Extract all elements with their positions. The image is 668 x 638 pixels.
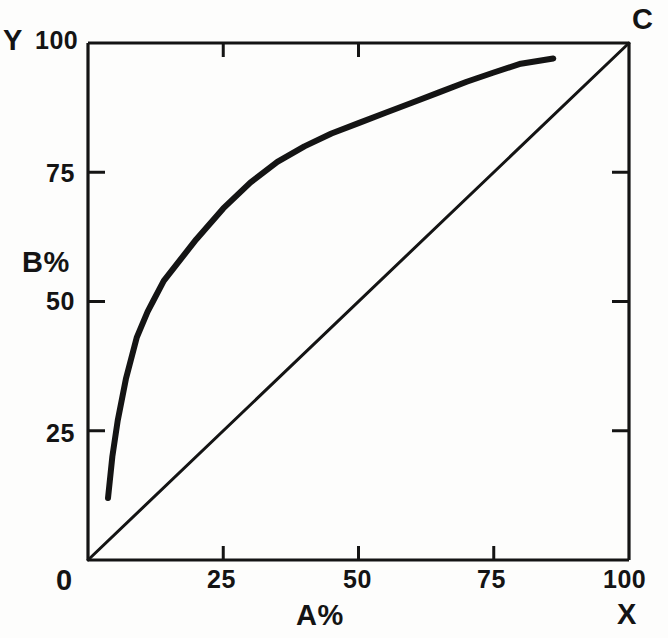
y-axis-endpoint-marker: Y (3, 26, 23, 55)
x-axis-endpoint-marker: X (617, 600, 637, 629)
y-tick-label-75: 75 (46, 161, 75, 186)
x-tick-label-75: 75 (477, 567, 506, 592)
x-tick-label-50: 50 (343, 567, 372, 592)
x-axis-title: A% (296, 601, 344, 630)
x-tick-label-100: 100 (603, 567, 646, 592)
origin-label: 0 (56, 566, 73, 595)
corner-marker-c: C (632, 5, 653, 34)
data-series-layer (88, 43, 629, 560)
y-tick-label-25: 25 (46, 421, 75, 446)
y-axis-title: B% (22, 248, 70, 277)
chart-canvas (0, 0, 668, 638)
y-tick-label-100: 100 (35, 28, 78, 53)
x-tick-label-25: 25 (207, 567, 236, 592)
y-tick-label-50: 50 (46, 289, 75, 314)
chart-figure: Y 100 75 50 25 B% 0 25 50 75 100 A% X C (0, 0, 668, 638)
series-enrichment-curve (108, 59, 553, 498)
